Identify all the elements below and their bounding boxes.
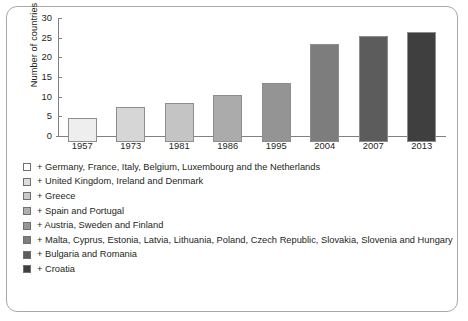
y-axis-tick: 10 [31,97,58,98]
y-axis-tick-mark [58,18,62,19]
chart-plot-region: Number of countries 051015202530 1957197… [16,12,446,155]
legend-swatch-icon [23,236,31,244]
y-axis-title: Number of countries [29,0,39,97]
y-axis-tick: 25 [31,38,58,39]
bar-1981 [165,103,194,142]
y-axis-tick: 30 [31,18,58,19]
legend-item-label: + Spain and Portugal [37,206,124,217]
x-axis-tick-label: 2013 [397,140,447,152]
y-axis-tick-label: 0 [47,130,52,141]
legend-swatch-icon [23,222,31,230]
legend-item-label: + Germany, France, Italy, Belgium, Luxem… [37,162,320,173]
legend-item-label: + Bulgaria and Romania [37,249,137,260]
bar-1973 [116,107,145,142]
y-axis-tick-mark [58,38,62,39]
x-axis-tick-label: 1986 [203,140,253,152]
legend-swatch-icon [23,251,31,259]
legend-item: + Malta, Cyprus, Estonia, Latvia, Lithua… [23,233,447,248]
y-axis-tick-mark [58,77,62,78]
y-axis-tick-label: 15 [42,71,52,82]
y-axis-tick-label: 30 [42,12,52,23]
legend-item: + Germany, France, Italy, Belgium, Luxem… [23,160,447,175]
bar-2007 [359,36,388,142]
y-axis-tick-mark [58,136,62,137]
plot-canvas: 051015202530 195719731981198619952004200… [58,18,446,142]
legend-swatch-icon [23,207,31,215]
legend-item: + Greece [23,189,447,204]
y-axis-tick: 5 [31,116,58,117]
y-axis-tick-label: 10 [42,91,52,102]
legend-item-label: + United Kingdom, Ireland and Denmark [37,176,203,187]
legend-swatch-icon [23,265,31,273]
legend-item: + Croatia [23,262,447,277]
x-axis-tick-label: 1981 [154,140,204,152]
legend-swatch-icon [23,163,31,171]
x-axis-tick-label: 2007 [348,140,398,152]
legend-item: + Spain and Portugal [23,204,447,219]
y-axis-tick-label: 20 [42,51,52,62]
y-axis-tick-mark [58,97,62,98]
legend-item: + Bulgaria and Romania [23,248,447,263]
chart-legend: + Germany, France, Italy, Belgium, Luxem… [23,160,447,277]
y-axis-tick-mark [58,116,62,117]
legend-item-label: + Malta, Cyprus, Estonia, Latvia, Lithua… [37,235,453,246]
bar-2004 [310,44,339,142]
y-axis-tick-label: 25 [42,32,52,43]
figure-container: Number of countries 051015202530 1957197… [0,0,468,321]
legend-swatch-icon [23,178,31,186]
bar-1995 [262,83,291,142]
x-axis-tick-label: 1995 [251,140,301,152]
y-axis-tick: 15 [31,77,58,78]
legend-item-label: + Croatia [37,264,75,275]
legend-item: + Austria, Sweden and Finland [23,218,447,233]
bar-2013 [407,32,436,142]
legend-item-label: + Austria, Sweden and Finland [37,220,163,231]
legend-swatch-icon [23,192,31,200]
legend-item-label: + Greece [37,191,76,202]
x-axis-tick-label: 1973 [106,140,156,152]
x-axis-tick-label: 2004 [300,140,350,152]
x-axis-tick-label: 1957 [57,140,107,152]
bar-1957 [68,118,97,142]
y-axis-tick: 0 [31,136,58,137]
y-axis-tick-label: 5 [47,110,52,121]
y-axis-tick: 20 [31,57,58,58]
y-axis-tick-mark [58,57,62,58]
bar-1986 [213,95,242,142]
legend-item: + United Kingdom, Ireland and Denmark [23,175,447,190]
